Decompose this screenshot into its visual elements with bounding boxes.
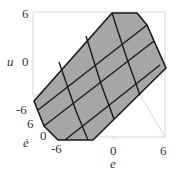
z-tick-top: 6: [22, 6, 29, 21]
x-axis-label: e: [110, 156, 116, 171]
z-tick-bottom: -6: [16, 102, 27, 117]
control-surface: [34, 13, 166, 140]
y-tick-6: 6: [27, 116, 34, 131]
y-tick-neg6: -6: [51, 141, 62, 156]
y-tick-0: 0: [40, 128, 47, 143]
z-tick-mid: 0: [22, 54, 29, 69]
x-tick-6: 6: [160, 143, 167, 158]
y-axis-label: ė: [23, 135, 29, 150]
z-axis-label: u: [7, 54, 14, 69]
surface-plot: 6 0 -6 u 6 0 ė -6 0 6 e: [0, 0, 176, 172]
